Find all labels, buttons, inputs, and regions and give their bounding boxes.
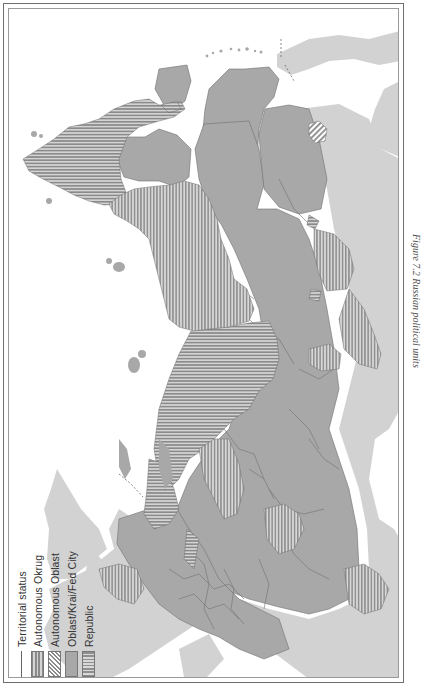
legend-label: Republic bbox=[83, 605, 95, 647]
territorial-status-line-icon bbox=[21, 651, 22, 677]
kuril-islands bbox=[206, 47, 263, 57]
legend-label: Oblast/Krai/Fed City bbox=[66, 551, 78, 647]
horizontal-stripes-swatch-icon bbox=[31, 651, 44, 677]
legend-title-text: Territorial status bbox=[16, 571, 28, 647]
figure-caption: Figure 7.2 Russian political units bbox=[411, 234, 422, 368]
legend-label: Autonomous Oblast bbox=[49, 553, 61, 647]
solid-gray-swatch-icon bbox=[65, 651, 78, 677]
map-frame: Territorial status Autonomous Okrug Auto… bbox=[8, 8, 399, 678]
legend-label: Autonomous Okrug bbox=[32, 555, 44, 647]
diagonal-stripes-swatch-icon bbox=[48, 651, 61, 677]
vertical-stripes-swatch-icon bbox=[82, 651, 95, 677]
figure-caption-container: Figure 7.2 Russian political units bbox=[408, 0, 422, 688]
